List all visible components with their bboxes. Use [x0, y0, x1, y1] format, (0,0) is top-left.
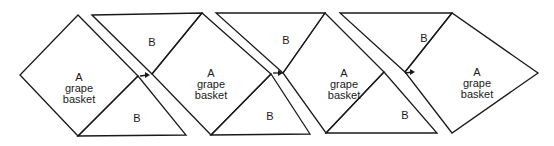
block-a1-line2: basket [63, 93, 95, 105]
triangle-b-bottom-3-label: B [401, 109, 408, 121]
triangle-b-bottom-2 [211, 74, 310, 135]
block-a3-line2: basket [328, 89, 360, 101]
arrow-icon [140, 72, 150, 78]
triangle-b-top-3-label: B [420, 32, 427, 44]
triangle-b-top-2 [216, 13, 325, 73]
triangle-b-top-1-label: B [148, 36, 155, 48]
triangle-b-bottom-2-label: B [266, 110, 273, 122]
unit-1 [20, 15, 186, 136]
block-a2-line2: basket [195, 89, 227, 101]
unit-4 [340, 13, 538, 133]
triangle-b-top-2-label: B [282, 34, 289, 46]
triangle-b-top-3 [340, 13, 452, 72]
block-a4-line2: basket [461, 88, 493, 100]
quilt-assembly-diagram: A grape basket A grape basket A grape ba… [0, 0, 554, 146]
triangle-b-top-1 [92, 13, 202, 74]
triangle-b-bottom-1 [78, 76, 186, 136]
block-a4-diamond [405, 13, 538, 133]
unit-2 [92, 13, 310, 135]
triangle-b-bottom-1-label: B [133, 112, 140, 124]
